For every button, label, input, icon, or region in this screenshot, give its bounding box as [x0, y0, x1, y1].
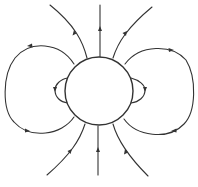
arrow-up-icon	[98, 26, 102, 31]
field-line-diagram	[0, 0, 198, 187]
field-line-left-large-loop	[5, 46, 74, 133]
field-line-right-large-loop	[124, 48, 194, 134]
arrow-up-left-icon	[73, 30, 77, 36]
arrow-left-icon	[27, 44, 33, 48]
field-line-top-left	[50, 5, 87, 58]
arrow-up-icon	[96, 147, 100, 152]
central-sphere	[65, 57, 133, 125]
arrow-down-icon	[143, 87, 147, 92]
arrow-down-icon	[53, 87, 57, 92]
